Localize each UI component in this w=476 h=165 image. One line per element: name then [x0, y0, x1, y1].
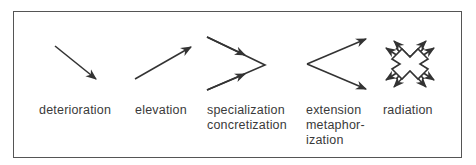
label-radiation: radiation: [383, 103, 433, 118]
arrow-up-right-icon: [135, 47, 191, 79]
arrow-down-right-icon: [55, 46, 96, 79]
label-elevation: elevation: [135, 103, 187, 118]
label-specialization: specialization concretization: [207, 103, 287, 133]
diverging-arrows-icon: [307, 39, 366, 89]
arrows-layer: [0, 0, 476, 165]
converging-arrows-icon: [207, 37, 265, 90]
label-deterioration: deterioration: [39, 103, 111, 118]
label-extension: extension metaphor- ization: [306, 103, 365, 148]
